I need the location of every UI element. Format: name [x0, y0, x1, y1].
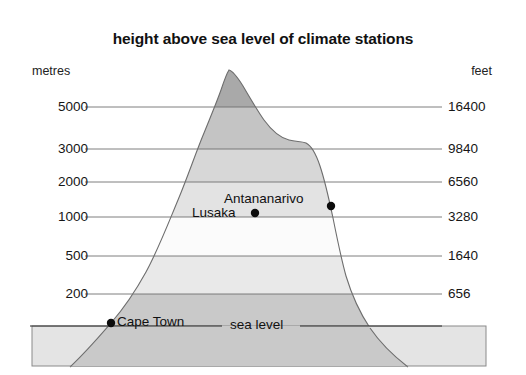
station-marker-antananarivo[interactable] — [327, 202, 335, 210]
climate-station-elevation-chart: height above sea level of climate statio… — [0, 0, 526, 375]
tick-label-right-656: 656 — [448, 287, 518, 301]
band-above-5000 — [0, 0, 526, 107]
sea-level-label: sea level — [230, 318, 283, 332]
station-marker-lusaka[interactable] — [251, 209, 259, 217]
tick-label-left-500: 500 — [28, 249, 88, 263]
tick-label-left-200: 200 — [28, 287, 88, 301]
station-label-cape-town: Cape Town — [117, 315, 184, 329]
tick-label-left-3000: 3000 — [28, 142, 88, 156]
tick-label-right-1640: 1640 — [448, 249, 518, 263]
station-marker-cape-town[interactable] — [107, 319, 115, 327]
tick-label-left-1000: 1000 — [28, 210, 88, 224]
tick-label-right-9840: 9840 — [448, 142, 518, 156]
tick-label-right-3280: 3280 — [448, 210, 518, 224]
station-label-lusaka: Lusaka — [192, 206, 236, 220]
tick-label-left-5000: 5000 — [28, 100, 88, 114]
tick-label-right-6560: 6560 — [448, 175, 518, 189]
tick-label-left-2000: 2000 — [28, 175, 88, 189]
station-label-antananarivo: Antananarivo — [224, 192, 304, 206]
tick-label-right-16400: 16400 — [448, 100, 518, 114]
